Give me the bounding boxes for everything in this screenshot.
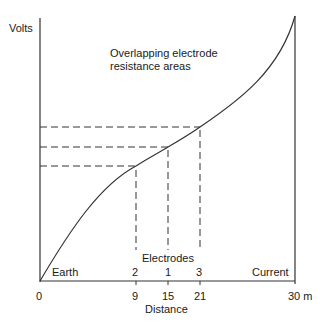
- tick-label-21: 21: [194, 290, 206, 302]
- tick-label-0: 0: [36, 290, 42, 302]
- electrode-1-label: 1: [165, 266, 171, 278]
- electrode-3-label: 3: [196, 266, 202, 278]
- tick-label-30: 30 m: [288, 290, 312, 302]
- earth-label: Earth: [52, 266, 78, 278]
- tick-label-9: 9: [132, 290, 138, 302]
- x-axis-label: Distance: [145, 303, 188, 315]
- electrodes-label: Electrodes: [142, 252, 194, 264]
- electrode-2-label: 2: [132, 266, 138, 278]
- annotation-line-2: resistance areas: [110, 60, 191, 72]
- current-label: Current: [252, 266, 289, 278]
- y-axis-label: Volts: [9, 22, 33, 34]
- tick-label-15: 15: [162, 290, 174, 302]
- annotation-line-1: Overlapping electrode: [110, 47, 218, 59]
